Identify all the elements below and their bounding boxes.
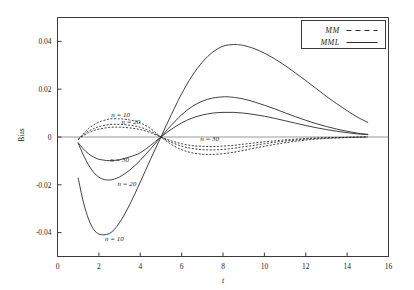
bias-vs-t-chart: 0246810121416 0.040.020-0.02-0.04 n = 10…	[0, 0, 414, 290]
x-tick-label: 6	[180, 262, 184, 271]
y-tick-label: 0	[48, 133, 52, 142]
chart-legend: MMMML	[302, 21, 386, 49]
y-tick-label: 0.04	[38, 37, 51, 46]
legend-entry-label: MML	[320, 38, 340, 47]
x-tick-label: 16	[385, 262, 393, 271]
figure-container: 0246810121416 0.040.020-0.02-0.04 n = 10…	[0, 0, 414, 290]
curve-annotation-label: n = 20	[122, 118, 141, 126]
y-tick-label: 0.02	[38, 85, 51, 94]
x-tick-label: 0	[56, 262, 60, 271]
x-tick-label: 14	[343, 262, 351, 271]
x-tick-label: 10	[261, 262, 269, 271]
legend-box	[302, 21, 386, 49]
legend-entry-label: MM	[324, 26, 340, 35]
curve-annotation-label: n = 20	[117, 180, 136, 188]
curve-annotation-label: n = 10	[105, 235, 124, 243]
x-tick-label: 4	[138, 262, 142, 271]
curve-annotation-label: n = 30	[110, 156, 129, 164]
x-tick-label: 12	[302, 262, 310, 271]
x-tick-label: 8	[221, 262, 225, 271]
y-tick-label: -0.02	[36, 181, 52, 190]
y-axis-label: Bias	[17, 128, 26, 141]
curve-annotation-label: n = 30	[200, 135, 219, 143]
y-tick-label: -0.04	[36, 228, 52, 237]
x-tick-label: 2	[97, 262, 101, 271]
